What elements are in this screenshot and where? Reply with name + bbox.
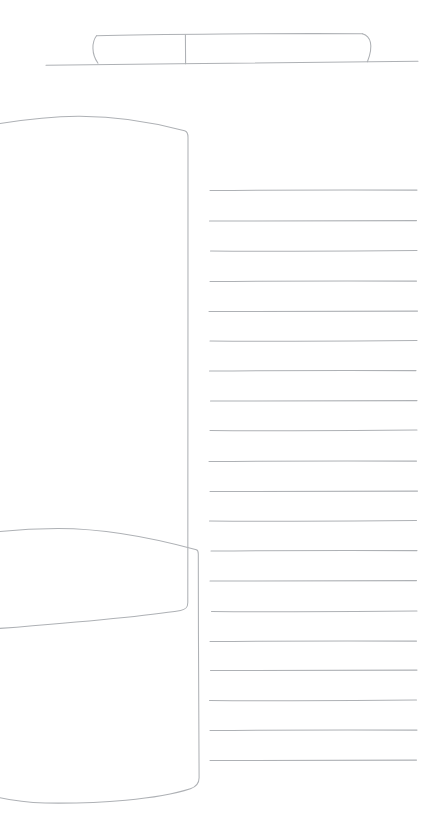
ruled-line	[210, 641, 417, 642]
ruled-line	[211, 251, 418, 252]
baseline	[46, 61, 418, 65]
ruled-line	[210, 190, 417, 191]
ruled-line	[210, 730, 417, 731]
ruled-line	[211, 550, 417, 551]
ruled-line	[210, 370, 417, 371]
tall-panel	[0, 116, 188, 628]
ruled-line	[210, 281, 417, 282]
lower-panel	[0, 529, 199, 804]
sketch-page	[0, 0, 443, 840]
ruled-line	[210, 341, 417, 342]
ruled-line	[212, 611, 418, 612]
ruled-line	[210, 700, 417, 701]
ruled-line	[210, 430, 417, 431]
capsule-left-end	[93, 36, 98, 63]
ruled-line	[210, 521, 417, 522]
ruled-lines-group	[209, 190, 418, 761]
capsule-right-end	[363, 34, 371, 62]
capsule-top-edge	[97, 34, 363, 36]
ruled-line	[209, 461, 417, 462]
sketch-canvas	[0, 0, 443, 840]
